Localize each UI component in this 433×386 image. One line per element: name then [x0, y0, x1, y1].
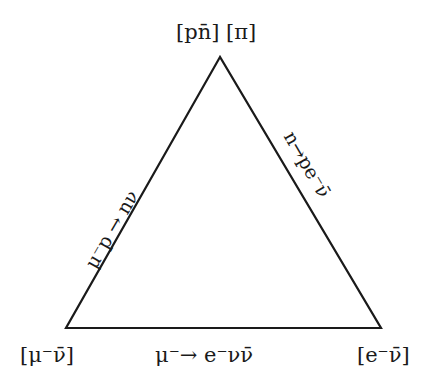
edge-bottom-label: μ⁻→ e⁻νν̄ [155, 345, 253, 366]
triangle-outline [66, 57, 381, 328]
triangle-diagram [0, 0, 433, 386]
vertex-right-label: [e⁻ν̄] [357, 345, 410, 366]
vertex-top-label: [pn̄] [π] [176, 22, 256, 43]
vertex-left-label: [μ⁻ν̄] [20, 345, 74, 366]
